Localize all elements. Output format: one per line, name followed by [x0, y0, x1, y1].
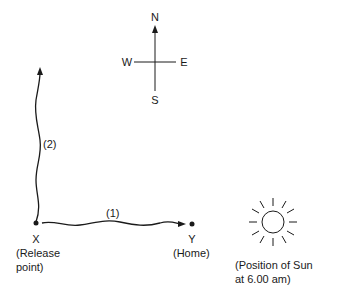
compass-west-label: W — [120, 56, 134, 69]
compass-south-label: S — [149, 94, 161, 107]
compass-rose — [134, 31, 176, 91]
path-2-wavy-line — [35, 73, 40, 222]
point-y-dot — [190, 222, 195, 227]
sun-icon — [249, 198, 297, 246]
compass-east-label: E — [178, 56, 190, 69]
sun-caption-line2: at 6.00 am) — [235, 273, 291, 286]
path-2-arrowhead-icon — [37, 67, 43, 75]
path-2-label: (2) — [43, 138, 56, 151]
sun-caption-line1: (Position of Sun — [235, 259, 313, 272]
compass-north-label: N — [149, 11, 161, 24]
point-y-letter: Y — [184, 233, 200, 246]
path-1-label: (1) — [106, 207, 119, 220]
north-arrowhead-icon — [152, 25, 158, 33]
point-x-caption-line1: (Release — [16, 247, 60, 260]
point-x-letter: X — [28, 233, 44, 246]
point-x-caption-line2: point) — [16, 261, 44, 274]
path-1-wavy-line — [42, 221, 180, 225]
point-y-caption: (Home) — [173, 247, 210, 260]
path-1-arrowhead-icon — [178, 221, 186, 227]
point-x-dot — [34, 221, 39, 226]
